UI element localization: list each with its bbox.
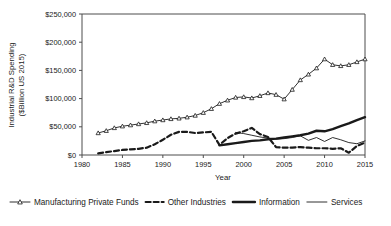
y-tick-label: $250,000 <box>45 10 76 19</box>
legend-item-information[interactable]: Information <box>233 198 300 207</box>
legend-label: Information <box>259 198 300 207</box>
y-tick-label: $0 <box>68 151 76 160</box>
y-tick-label: $200,000 <box>45 38 76 47</box>
x-tick-label: 1980 <box>74 160 90 169</box>
data-point-marker <box>322 57 326 61</box>
data-point-marker <box>145 121 149 125</box>
x-axis-title: Year <box>215 173 231 182</box>
data-point-marker <box>137 122 141 126</box>
y-tick-label: $50,000 <box>49 122 76 131</box>
chart-figure: $0$50,000$100,000$150,000$200,000$250,00… <box>0 0 391 226</box>
plot-axes <box>82 14 365 155</box>
y-tick-label: $100,000 <box>45 94 76 103</box>
legend-label: Manufacturing Private Funds <box>34 198 139 207</box>
y-tick-labels: $0$50,000$100,000$150,000$200,000$250,00… <box>45 10 76 160</box>
data-point-marker <box>225 98 229 102</box>
data-point-marker <box>161 118 165 122</box>
x-tick-label: 2005 <box>276 160 292 169</box>
y-axis-title-line1: Industrial R&D Spending <box>7 42 16 127</box>
data-point-marker <box>169 117 173 121</box>
data-point-marker <box>120 124 124 128</box>
data-point-marker <box>242 95 246 99</box>
data-point-marker <box>266 91 270 95</box>
data-point-marker <box>209 107 213 111</box>
data-point-marker <box>177 116 181 120</box>
data-point-marker <box>274 93 278 97</box>
data-point-marker <box>258 94 262 98</box>
data-point-marker <box>185 115 189 119</box>
x-tick-labels: 19801985199019952000200520102015 <box>74 160 373 169</box>
legend-label: Other Industries <box>168 198 226 207</box>
x-tick-label: 2015 <box>357 160 373 169</box>
data-point-marker <box>363 57 367 61</box>
data-point-marker <box>104 129 108 133</box>
x-tick-label: 1985 <box>114 160 130 169</box>
legend-item-services[interactable]: Services <box>307 198 362 207</box>
rd-spending-line-chart: $0$50,000$100,000$150,000$200,000$250,00… <box>0 0 391 226</box>
data-point-marker <box>234 95 238 99</box>
x-tick-label: 1990 <box>155 160 171 169</box>
data-point-marker <box>347 63 351 67</box>
chart-legend: Manufacturing Private FundsOther Industr… <box>10 198 362 207</box>
x-tick-label: 1995 <box>195 160 211 169</box>
series-line <box>219 117 365 145</box>
series-layer <box>96 57 367 153</box>
legend-item-other-industries[interactable]: Other Industries <box>146 198 226 207</box>
data-point-marker <box>193 113 197 117</box>
data-point-marker <box>339 64 343 68</box>
data-point-marker <box>355 60 359 64</box>
legend-label: Services <box>331 198 362 207</box>
data-point-marker <box>153 119 157 123</box>
legend-item-manufacturing-private-funds[interactable]: Manufacturing Private Funds <box>10 198 139 207</box>
data-point-marker <box>128 123 132 127</box>
x-tick-label: 2000 <box>235 160 251 169</box>
y-axis-title-line2: ($Billion US 2015) <box>17 53 26 116</box>
series-manufacturing-private-funds <box>96 57 367 135</box>
y-axis-title: Industrial R&D Spending ($Billion US 201… <box>7 42 26 127</box>
data-point-marker <box>96 131 100 135</box>
x-tick-label: 2010 <box>316 160 332 169</box>
data-point-marker <box>112 126 116 130</box>
data-point-marker <box>217 102 221 106</box>
series-information <box>219 117 365 145</box>
y-tick-label: $150,000 <box>45 66 76 75</box>
data-point-marker <box>250 96 254 100</box>
data-point-marker <box>201 111 205 115</box>
